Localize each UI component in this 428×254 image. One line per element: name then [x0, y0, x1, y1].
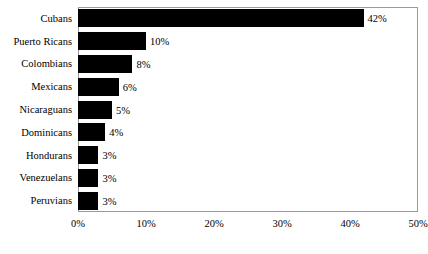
bar-row: 4%	[78, 123, 418, 141]
bar-row: 3%	[78, 169, 418, 187]
bar-value-label: 3%	[98, 150, 116, 161]
x-tick-label: 10%	[136, 218, 155, 229]
bar	[78, 123, 105, 141]
category-label: Dominicans	[0, 127, 72, 138]
category-label: Cubans	[0, 13, 72, 24]
bar	[78, 32, 146, 50]
bar-row: 6%	[78, 78, 418, 96]
category-label: Mexicans	[0, 81, 72, 92]
bar-value-label: 8%	[132, 58, 150, 69]
bar	[78, 78, 119, 96]
bar-row: 8%	[78, 55, 418, 73]
x-tick-label: 0%	[71, 218, 85, 229]
bar-row: 10%	[78, 32, 418, 50]
bar-row: 3%	[78, 192, 418, 210]
bar-value-label: 6%	[119, 81, 137, 92]
category-label: Peruvians	[0, 195, 72, 206]
category-label: Colombians	[0, 58, 72, 69]
bar-row: 42%	[78, 9, 418, 27]
bar	[78, 101, 112, 119]
bar-row: 5%	[78, 101, 418, 119]
x-tick-label: 40%	[340, 218, 359, 229]
bar-value-label: 42%	[364, 13, 387, 24]
category-label: Nicaraguans	[0, 104, 72, 115]
bar	[78, 9, 364, 27]
x-tick-label: 20%	[204, 218, 223, 229]
category-label: Hondurans	[0, 150, 72, 161]
category-axis-labels: CubansPuerto RicansColombiansMexicansNic…	[0, 7, 72, 212]
bar-row: 3%	[78, 146, 418, 164]
category-label: Puerto Ricans	[0, 36, 72, 47]
x-tick-label: 30%	[272, 218, 291, 229]
bars-layer: 42%10%8%6%5%4%3%3%3%	[78, 7, 418, 212]
bar-value-label: 3%	[98, 195, 116, 206]
bar-value-label: 5%	[112, 104, 130, 115]
category-label: Venezuelans	[0, 172, 72, 183]
bar-value-label: 4%	[105, 127, 123, 138]
bar	[78, 55, 132, 73]
bar-value-label: 3%	[98, 172, 116, 183]
bar-chart: CubansPuerto RicansColombiansMexicansNic…	[0, 0, 428, 254]
x-tick-label: 50%	[408, 218, 427, 229]
bar	[78, 192, 98, 210]
bar	[78, 146, 98, 164]
bar	[78, 169, 98, 187]
bar-value-label: 10%	[146, 36, 169, 47]
x-axis-tick-labels: 0%10%20%30%40%50%	[78, 212, 418, 242]
